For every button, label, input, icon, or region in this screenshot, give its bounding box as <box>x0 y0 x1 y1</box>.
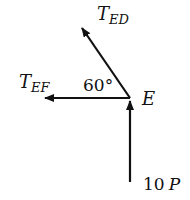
node-label: E <box>141 88 155 109</box>
load-label: 10P <box>143 174 181 194</box>
tef-label: TEF <box>19 71 51 95</box>
angle-label: 60° <box>83 75 113 95</box>
ted-label: TED <box>97 3 130 27</box>
free-body-diagram: TED TEF 60° E 10P <box>0 0 190 200</box>
